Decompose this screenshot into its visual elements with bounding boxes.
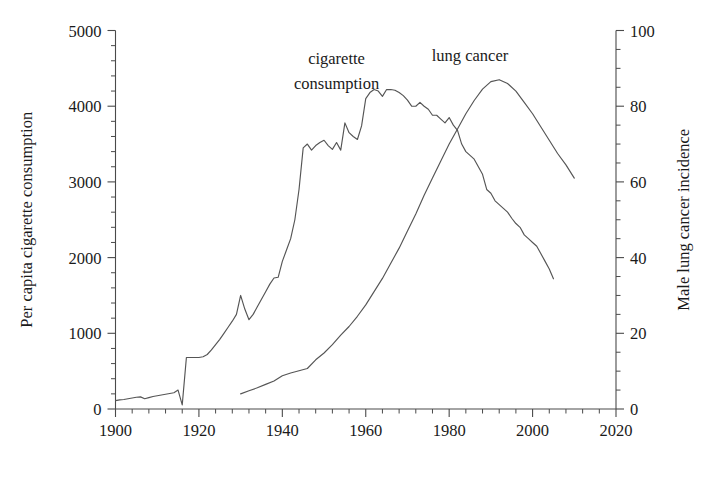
x-tick-label: 1980 — [433, 421, 466, 440]
x-tick-label: 2000 — [516, 421, 549, 440]
y-tick-label: 5000 — [69, 22, 102, 41]
y-tick-label: 2000 — [69, 249, 102, 268]
annotation-cigarette-consumption: cigarette — [308, 49, 365, 68]
y2-tick-label: 80 — [630, 97, 647, 116]
annotation-cigarette-consumption: consumption — [294, 74, 379, 93]
chart-figure: 1900192019401960198020002020010002000300… — [0, 0, 714, 477]
y2-tick-label: 100 — [630, 22, 655, 41]
series-cigarette-consumption — [116, 90, 554, 405]
y-tick-label: 4000 — [69, 97, 102, 116]
y2-tick-label: 60 — [630, 173, 647, 192]
x-tick-label: 1920 — [182, 421, 215, 440]
y2-tick-label: 40 — [630, 249, 647, 268]
annotation-lung-cancer: lung cancer — [432, 46, 509, 65]
annotations-group: cigaretteconsumptionlung cancer — [294, 46, 509, 93]
series-group — [116, 80, 575, 405]
x-tick-label: 1940 — [266, 421, 299, 440]
x-tick-label: 2020 — [600, 421, 633, 440]
y-tick-label: 0 — [93, 400, 101, 419]
axis-titles-group: Per capita cigarette consumptionMale lun… — [17, 112, 693, 328]
y2-tick-label: 0 — [630, 400, 638, 419]
y-tick-label: 3000 — [69, 173, 102, 192]
y-tick-label: 1000 — [69, 324, 102, 343]
x-tick-label: 1900 — [99, 421, 132, 440]
y2-axis-title: Male lung cancer incidence — [674, 129, 693, 311]
x-tick-label: 1960 — [349, 421, 382, 440]
chart-svg: 1900192019401960198020002020010002000300… — [0, 0, 714, 477]
y2-tick-label: 20 — [630, 324, 647, 343]
y-axis-title: Per capita cigarette consumption — [17, 112, 36, 328]
